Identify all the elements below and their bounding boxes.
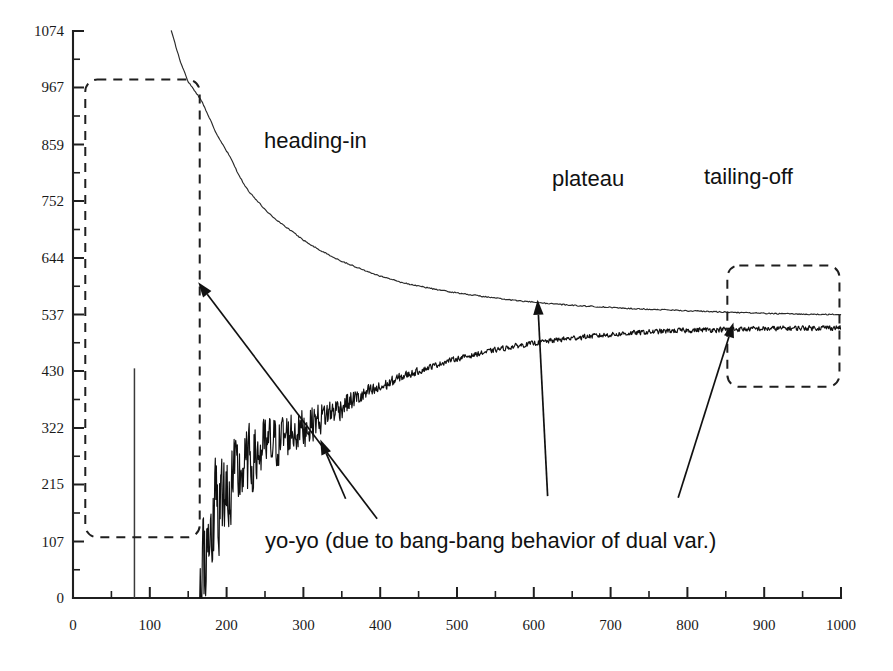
x-tick-label: 100 (139, 617, 162, 633)
x-tick-label: 0 (69, 617, 77, 633)
y-tick-label: 752 (42, 193, 65, 209)
annotation-label-yo-yo: yo-yo (due to bang-bang behavior of dual… (265, 528, 716, 553)
x-tick-label: 200 (215, 617, 238, 633)
y-tick-label: 644 (42, 250, 65, 266)
y-tick-label: 1074 (34, 23, 65, 39)
y-tick-label: 107 (42, 534, 65, 550)
convergence-chart: 01072153224305376447528599671074 0100200… (0, 0, 893, 671)
x-tick-label: 400 (369, 617, 392, 633)
x-tick-label: 300 (292, 617, 315, 633)
x-tick-label: 800 (676, 617, 699, 633)
y-tick-label: 215 (42, 476, 65, 492)
annotation-label-plateau: plateau (552, 166, 624, 191)
x-tick-label: 500 (446, 617, 469, 633)
x-tick-label: 600 (523, 617, 546, 633)
y-tick-label: 859 (42, 137, 65, 153)
x-tick-label: 1000 (826, 617, 856, 633)
y-tick-label: 430 (42, 363, 65, 379)
x-tick-label: 900 (753, 617, 776, 633)
x-tick-label: 700 (599, 617, 622, 633)
y-tick-label: 537 (42, 307, 65, 323)
y-tick-label: 322 (42, 420, 65, 436)
annotation-label-heading-in: heading-in (264, 128, 367, 153)
y-tick-label: 967 (42, 79, 65, 95)
y-tick-label: 0 (57, 590, 65, 606)
annotation-label-tailing-off: tailing-off (704, 164, 794, 189)
